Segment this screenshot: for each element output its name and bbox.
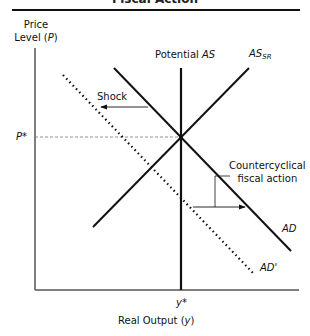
- as-sr-label: ASSR: [249, 48, 272, 63]
- p-star-label: P*: [16, 131, 27, 143]
- potential-as-label: Potential AS: [155, 49, 215, 61]
- ad-prime-label: AD': [260, 262, 277, 274]
- y-star-label: y*: [176, 297, 187, 309]
- equilibrium-point: [179, 135, 183, 139]
- ad-prime-line: [63, 75, 254, 274]
- shock-label: Shock: [97, 91, 127, 103]
- ad-label: AD: [282, 223, 297, 235]
- x-axis-label: Real Output (y): [118, 315, 194, 327]
- y-axis-label: Price Level (P): [14, 18, 58, 44]
- countercyclical-label: Countercyclical fiscal action: [229, 159, 306, 185]
